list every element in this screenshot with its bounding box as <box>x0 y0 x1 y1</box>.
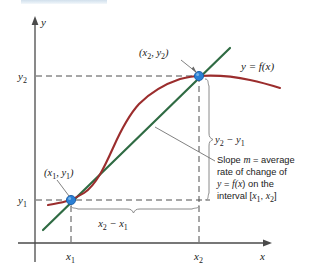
y-tick-label-y1: y1 <box>17 194 27 209</box>
y-tick-label-y2: y2 <box>17 70 27 85</box>
slope-note-line-3: y = f(x) on the <box>216 178 274 190</box>
point-marker-p1 <box>66 195 75 204</box>
x-axis-label: x <box>259 250 265 262</box>
delta-y-label: y2 − y1 <box>214 134 245 148</box>
x-tick-label-x2: x2 <box>193 250 203 265</box>
x-tick-label-x1: x1 <box>65 250 75 265</box>
delta-x-label: x2 − x1 <box>97 218 128 232</box>
slope-note-line-4: interval [x1, x2] <box>217 190 277 204</box>
point-label-p2: (x2, y2) <box>139 47 169 61</box>
delta-x-brace <box>71 205 199 213</box>
point-label-p1: (x1, y1) <box>44 167 74 181</box>
rate-of-change-diagram: y x y2 y1 <box>0 0 328 273</box>
x-axis-arrowhead <box>263 240 272 247</box>
slope-note: Slope m = average rate of change of y = … <box>216 154 295 204</box>
point-label-p1-leader <box>57 180 69 196</box>
slope-note-line-1: Slope m = average <box>217 154 295 165</box>
y-axis-label: y <box>40 16 46 28</box>
delta-y-brace <box>205 79 213 200</box>
slope-note-leader <box>155 127 215 161</box>
point-marker-p2 <box>194 71 203 80</box>
scan-artifact-bar <box>21 0 107 4</box>
point-label-p2-arrowhead <box>192 67 198 74</box>
slope-note-line-2: rate of change of <box>217 167 287 177</box>
figure-canvas: y x y2 y1 <box>0 0 328 273</box>
y-axis-arrowhead <box>32 16 39 25</box>
curve-label: y = f(x) <box>240 60 274 73</box>
